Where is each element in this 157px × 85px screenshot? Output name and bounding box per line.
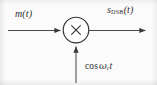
carrier-time-variable: t xyxy=(109,61,112,71)
message-signal-argument: (t) xyxy=(22,8,32,19)
carrier-omega-symbol: ω xyxy=(99,60,107,71)
message-signal-label: m(t) xyxy=(15,9,32,19)
dsb-output-subscript: DSB xyxy=(111,8,124,15)
carrier-signal-label: cos ωct xyxy=(85,61,112,72)
dsb-modulator-figure: m(t) sDSB(t) cos ωct xyxy=(0,0,157,85)
dsb-output-label: sDSB(t) xyxy=(107,5,133,16)
dsb-output-argument: (t) xyxy=(124,4,134,15)
carrier-cosine-text: cos xyxy=(85,61,98,71)
